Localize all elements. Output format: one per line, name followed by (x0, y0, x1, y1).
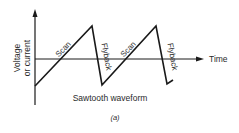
time-axis-arrowhead-icon (196, 57, 204, 62)
segment-label-flyback-2: Flyback (166, 42, 180, 72)
segment-label-flyback-1: Flyback (100, 42, 114, 72)
y-axis-arrowhead-icon (33, 9, 38, 17)
y-axis-label-line2: or current (22, 39, 32, 76)
y-axis-label-line1: Voltage (12, 44, 22, 73)
sawtooth-waveform-figure: Voltage or current Scan Flyback Scan Fly… (0, 0, 239, 133)
figure-sublabel: (a) (110, 113, 120, 122)
figure-title: Sawtooth waveform (73, 93, 148, 103)
x-axis-label: Time (209, 54, 228, 64)
